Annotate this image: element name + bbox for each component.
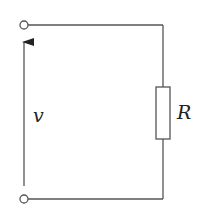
circuit-diagram: v R [0,0,207,212]
bottom-terminal [20,195,28,203]
voltage-label: v [33,104,44,126]
top-terminal [20,21,28,29]
resistor [156,87,170,139]
resistor-label: R [176,101,191,123]
